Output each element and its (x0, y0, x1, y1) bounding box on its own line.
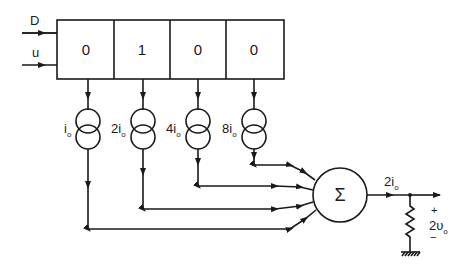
summing-junction: Σ (313, 168, 367, 222)
register-bit-1: 1 (138, 41, 146, 58)
register-bit-3: 0 (250, 41, 258, 58)
summing-wires (88, 149, 316, 229)
current-source-2: 2io (111, 109, 155, 149)
input-d-label: D (30, 13, 39, 28)
sigma-icon: Σ (334, 185, 345, 205)
output-voltage-plus: + (431, 204, 437, 216)
output-voltage-minus: − (430, 231, 436, 243)
shift-register: 0 1 0 0 (57, 20, 284, 79)
input-u-label: u (32, 45, 39, 60)
dac-diagram: D u 0 1 0 0 io 2io 4io 8io (0, 0, 465, 278)
resistor-icon (406, 195, 414, 252)
register-bit-2: 0 (194, 41, 202, 58)
input-u: u (22, 45, 57, 65)
register-bit-0: 0 (82, 41, 90, 58)
output-branch: 2io + 2υo − (367, 174, 448, 256)
source-2-label: 2io (111, 121, 126, 139)
current-source-3: 4io (166, 109, 210, 149)
source-3-label: 4io (166, 121, 181, 139)
source-4-label: 8io (222, 121, 237, 139)
current-source-4: 8io (222, 109, 266, 149)
source-1-label: io (64, 121, 72, 139)
input-d: D (22, 13, 57, 33)
current-source-1: io (64, 109, 100, 149)
ground-icon (401, 252, 420, 256)
output-current-label: 2io (384, 174, 399, 192)
